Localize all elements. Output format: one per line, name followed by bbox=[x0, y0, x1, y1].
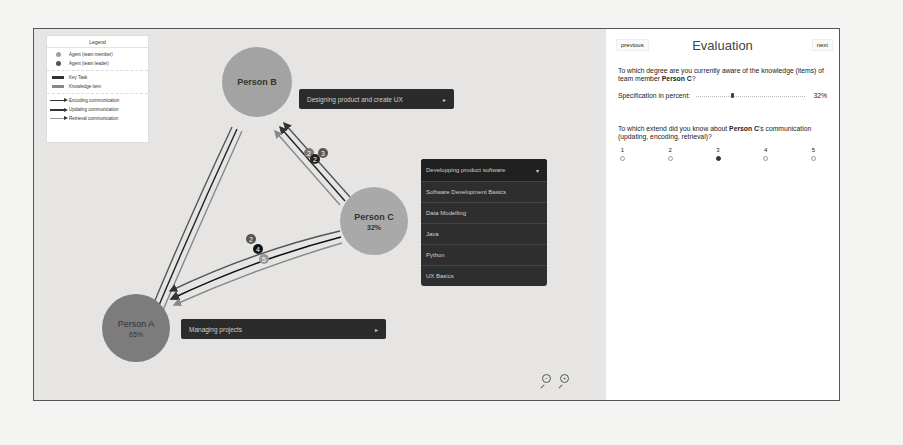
node-person-a[interactable]: Person A 65% bbox=[102, 294, 170, 362]
dropdown-header[interactable]: Developping product software ▾ bbox=[421, 159, 547, 181]
encoding-arrow-icon bbox=[50, 100, 66, 101]
zoom-in-button[interactable]: + bbox=[557, 374, 569, 388]
zoom-out-icon: − bbox=[542, 374, 551, 383]
evaluation-title: Evaluation bbox=[606, 38, 839, 53]
radio-button[interactable] bbox=[668, 156, 673, 161]
dropdown-item[interactable]: UX Basics bbox=[421, 265, 547, 286]
network-canvas[interactable]: 2 2 3 2 4 5 Legend Agent (team member) A… bbox=[34, 29, 606, 400]
expand-arrow-icon: ▸ bbox=[443, 96, 446, 103]
svg-text:2: 2 bbox=[307, 150, 311, 157]
retrieval-arrow-icon bbox=[50, 118, 66, 119]
radio-button[interactable] bbox=[811, 156, 816, 161]
legend-agent-member: Agent (team member) bbox=[47, 50, 148, 59]
legend-encoding: Encoding communication bbox=[47, 96, 148, 105]
key-task-icon bbox=[52, 76, 64, 79]
radio-button[interactable] bbox=[620, 156, 625, 161]
question-awareness: To which degree are you currently aware … bbox=[606, 67, 839, 82]
dropdown-item[interactable]: Java bbox=[421, 223, 547, 244]
percent-slider-row: Specification in percent: 32% bbox=[606, 92, 839, 99]
legend-title: Legend bbox=[47, 36, 148, 48]
rating-scale: 1 2 3 4 5 bbox=[606, 147, 828, 161]
svg-text:2: 2 bbox=[313, 156, 317, 163]
zoom-in-icon: + bbox=[560, 374, 569, 383]
task-person-b[interactable]: Designing product and create UX ▸ bbox=[299, 89, 454, 109]
percent-slider[interactable] bbox=[696, 93, 805, 99]
node-person-c[interactable]: Person C 32% bbox=[340, 187, 408, 255]
rating-option-4[interactable]: 4 bbox=[763, 147, 768, 161]
zoom-controls: − + bbox=[539, 374, 569, 388]
legend-retrieval: Retrieval communication bbox=[47, 114, 148, 123]
legend-agent-leader: Agent (team leader) bbox=[47, 59, 148, 68]
agent-member-icon bbox=[56, 52, 61, 57]
legend-updating: Updating communication bbox=[47, 105, 148, 114]
expand-arrow-icon: ▸ bbox=[375, 326, 378, 333]
slider-thumb[interactable] bbox=[731, 93, 734, 98]
agent-leader-icon bbox=[56, 61, 61, 66]
node-person-b[interactable]: Person B bbox=[222, 47, 292, 117]
chevron-down-icon: ▾ bbox=[536, 167, 539, 174]
rating-option-3[interactable]: 3 bbox=[716, 147, 721, 161]
question-communication: To which extend did you know about Perso… bbox=[606, 125, 839, 140]
evaluation-panel: previous Evaluation next To which degree… bbox=[606, 29, 839, 400]
dropdown-item[interactable]: Data Modelling bbox=[421, 202, 547, 223]
svg-text:3: 3 bbox=[321, 150, 325, 157]
task-person-a[interactable]: Managing projects ▸ bbox=[181, 319, 386, 339]
legend-knowledge-item: Knowledge item bbox=[47, 82, 148, 91]
rating-option-5[interactable]: 5 bbox=[811, 147, 816, 161]
legend-key-task: Key Task bbox=[47, 73, 148, 82]
svg-text:4: 4 bbox=[256, 246, 260, 253]
radio-button[interactable] bbox=[763, 156, 768, 161]
updating-arrow-icon bbox=[50, 109, 66, 111]
dropdown-item[interactable]: Software Development Basics bbox=[421, 181, 547, 202]
radio-button-selected[interactable] bbox=[716, 156, 721, 161]
svg-text:2: 2 bbox=[249, 236, 253, 243]
knowledge-item-icon bbox=[52, 85, 64, 88]
app-frame: 2 2 3 2 4 5 Legend Agent (team member) A… bbox=[33, 28, 840, 401]
svg-text:5: 5 bbox=[262, 256, 266, 263]
rating-option-2[interactable]: 2 bbox=[668, 147, 673, 161]
knowledge-dropdown[interactable]: Developping product software ▾ Software … bbox=[421, 159, 547, 286]
zoom-out-button[interactable]: − bbox=[539, 374, 551, 388]
next-button[interactable]: next bbox=[812, 39, 833, 51]
legend: Legend Agent (team member) Agent (team l… bbox=[46, 35, 149, 143]
dropdown-item[interactable]: Python bbox=[421, 244, 547, 265]
rating-option-1[interactable]: 1 bbox=[620, 147, 625, 161]
slider-value: 32% bbox=[813, 92, 827, 99]
